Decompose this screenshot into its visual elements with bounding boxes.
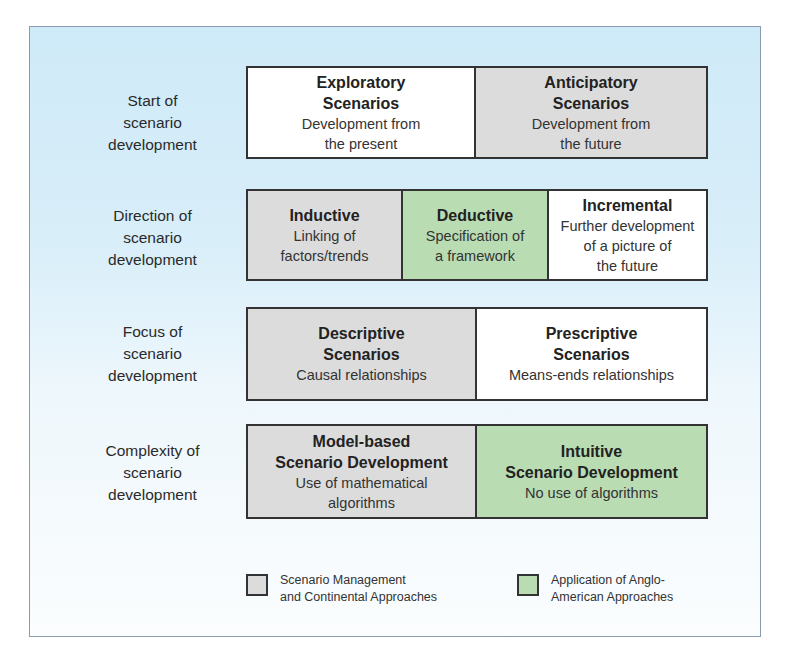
cell-model-based: Model-based Scenario Development Use of …: [248, 426, 475, 517]
row-label-line: development: [70, 484, 235, 506]
cell-desc: factors/trends: [281, 246, 369, 266]
row-label-line: development: [70, 134, 235, 156]
cell-desc: a framework: [435, 246, 515, 266]
cell-desc: the future: [560, 134, 621, 154]
row-label-line: development: [70, 365, 235, 387]
cell-desc: the present: [325, 134, 398, 154]
legend-swatch-grey: [246, 574, 268, 596]
cell-title: Scenario Development: [505, 462, 678, 483]
row-label-line: scenario: [70, 227, 235, 249]
cell-deductive: Deductive Specification of a framework: [401, 191, 547, 279]
cell-anticipatory-scenarios: Anticipatory Scenarios Development from …: [474, 68, 706, 157]
cell-title: Scenarios: [553, 93, 629, 114]
cell-title: Scenarios: [323, 344, 399, 365]
cell-title: Exploratory: [317, 72, 406, 93]
row-label-line: Start of: [70, 90, 235, 112]
cell-descriptive-scenarios: Descriptive Scenarios Causal relationshi…: [248, 309, 475, 399]
row-label-line: scenario: [70, 343, 235, 365]
row-label-start: Start of scenario development: [70, 90, 235, 156]
cell-desc: Development from: [302, 114, 420, 134]
legend-swatch-green: [517, 574, 539, 596]
cell-incremental: Incremental Further development of a pic…: [547, 191, 706, 279]
cell-desc: Development from: [532, 114, 650, 134]
row-label-line: development: [70, 249, 235, 271]
row-label-line: Direction of: [70, 205, 235, 227]
cell-title: Model-based: [313, 431, 411, 452]
legend-text: Application of Anglo- American Approache…: [551, 572, 673, 606]
cell-title: Descriptive: [318, 323, 404, 344]
cell-title: Anticipatory: [544, 72, 637, 93]
row-label-focus: Focus of scenario development: [70, 321, 235, 387]
cell-title: Scenario Development: [275, 452, 448, 473]
cell-desc: Use of mathematical: [295, 473, 427, 493]
cell-title: Deductive: [437, 205, 513, 226]
row-direction-boxes: Inductive Linking of factors/trends Dedu…: [246, 189, 708, 281]
cell-desc: Means-ends relationships: [509, 365, 674, 385]
cell-title: Scenarios: [553, 344, 629, 365]
legend-item-grey: Scenario Management and Continental Appr…: [246, 572, 437, 606]
cell-title: Incremental: [583, 195, 673, 216]
cell-title: Intuitive: [561, 441, 622, 462]
cell-desc: Further development: [561, 216, 695, 236]
row-focus-boxes: Descriptive Scenarios Causal relationshi…: [246, 307, 708, 401]
row-label-complexity: Complexity of scenario development: [70, 440, 235, 506]
cell-title: Inductive: [289, 205, 359, 226]
row-label-line: scenario: [70, 112, 235, 134]
row-complexity-boxes: Model-based Scenario Development Use of …: [246, 424, 708, 519]
cell-desc: Linking of: [293, 226, 355, 246]
row-start-boxes: Exploratory Scenarios Development from t…: [246, 66, 708, 159]
cell-exploratory-scenarios: Exploratory Scenarios Development from t…: [248, 68, 474, 157]
legend-item-green: Application of Anglo- American Approache…: [517, 572, 673, 606]
cell-desc: algorithms: [328, 493, 395, 513]
cell-desc: Causal relationships: [296, 365, 427, 385]
cell-inductive: Inductive Linking of factors/trends: [248, 191, 401, 279]
cell-desc: Specification of: [426, 226, 524, 246]
legend-text: Scenario Management and Continental Appr…: [280, 572, 437, 606]
cell-desc: the future: [597, 256, 658, 276]
cell-prescriptive-scenarios: Prescriptive Scenarios Means-ends relati…: [475, 309, 706, 399]
cell-title: Prescriptive: [546, 323, 638, 344]
row-label-line: Focus of: [70, 321, 235, 343]
cell-desc: No use of algorithms: [525, 483, 658, 503]
cell-desc: of a picture of: [584, 236, 672, 256]
row-label-direction: Direction of scenario development: [70, 205, 235, 271]
row-label-line: scenario: [70, 462, 235, 484]
cell-title: Scenarios: [323, 93, 399, 114]
row-label-line: Complexity of: [70, 440, 235, 462]
cell-intuitive: Intuitive Scenario Development No use of…: [475, 426, 706, 517]
